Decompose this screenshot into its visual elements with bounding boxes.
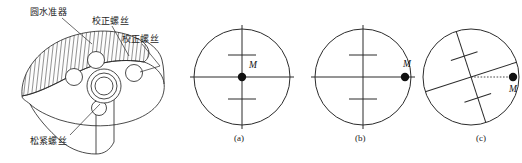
diagram-a-bubble-point <box>238 73 246 81</box>
diagram-b-bubble-point <box>401 73 409 81</box>
diagram-c-group <box>411 17 522 138</box>
diagram-c-bubble-point <box>509 73 517 81</box>
bubble-diagrams-svg <box>0 0 522 163</box>
diagram-a-caption: (a) <box>234 133 244 143</box>
diagram-a-bubble-label: M <box>249 60 257 70</box>
diagram-b-group <box>311 25 415 129</box>
diagram-c-bubble-label: M <box>509 84 517 94</box>
diagram-b-bubble-label: M <box>403 59 411 69</box>
diagram-c-caption: (c) <box>476 133 486 143</box>
diagram-a-group <box>190 25 294 129</box>
figure-root: 圆水准器 校正螺丝 校正螺丝 松紧螺丝 <box>0 0 522 163</box>
diagram-b-caption: (b) <box>355 133 366 143</box>
